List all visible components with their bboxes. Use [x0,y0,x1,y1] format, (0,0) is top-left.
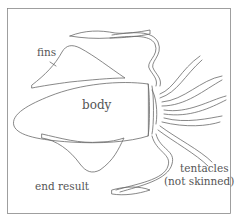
label-body: body [82,100,111,111]
end-result-outline [42,134,124,172]
label-fins: fins [37,47,56,58]
body-outline [13,83,148,143]
head-outline [148,84,157,136]
tentacles [158,56,226,166]
label-end-result: end result [35,181,89,192]
diagram: fins body end result tentacles (not skin… [0,0,235,220]
skin-strip-bottom [112,187,150,195]
skin-strip-top [70,30,150,38]
label-tentacles: tentacles [180,163,229,174]
label-not-skinned: (not skinned) [164,176,234,187]
